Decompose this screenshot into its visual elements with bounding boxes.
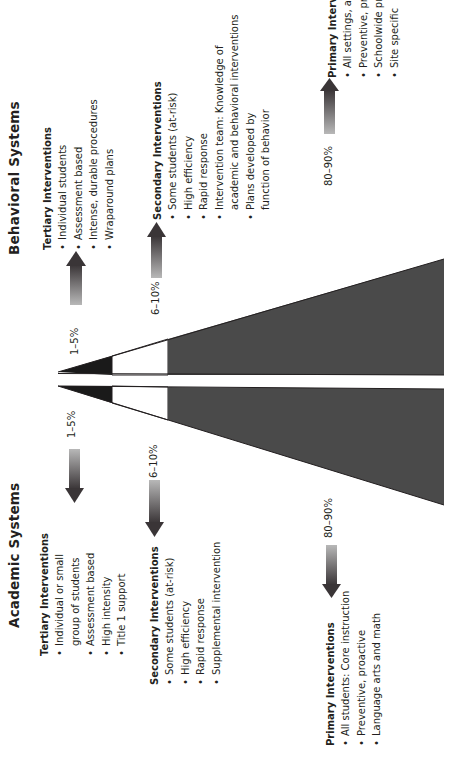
list-item: function of behavior bbox=[258, 15, 274, 221]
list-item: Supplemental intervention bbox=[209, 542, 225, 685]
behavioral-secondary-heading: Secondary Interventions bbox=[150, 15, 165, 221]
academic-secondary-arrow-icon bbox=[145, 480, 164, 537]
list-item: All students: Core instruction bbox=[338, 591, 354, 746]
academic-primary-tier bbox=[168, 387, 444, 505]
list-item: group of students bbox=[68, 533, 84, 656]
academic-primary-heading: Primary Interventions bbox=[323, 591, 338, 746]
behavioral-tertiary-block: Tertiary Interventions Individual studen… bbox=[40, 99, 117, 250]
list-item: All settings, all students bbox=[340, 0, 356, 78]
behavioral-tertiary-heading: Tertiary Interventions bbox=[40, 99, 55, 250]
academic-tertiary-percent: 1–5% bbox=[66, 411, 77, 438]
academic-secondary-tier bbox=[112, 386, 168, 420]
list-item: Assessment based bbox=[71, 99, 87, 250]
list-item: High efficiency bbox=[178, 542, 194, 685]
list-item: Rapid response bbox=[193, 542, 209, 685]
behavioral-tertiary-percent: 1–5% bbox=[69, 328, 80, 355]
behavioral-secondary-percent: 6–10% bbox=[150, 281, 161, 315]
behavioral-primary-arrow-icon bbox=[320, 78, 339, 134]
list-item: Site specific bbox=[387, 0, 403, 78]
academic-primary-block: Primary Interventions All students: Core… bbox=[323, 591, 385, 746]
behavioral-primary-block: Primary Interventions All settings, all … bbox=[325, 0, 402, 78]
list-item: Individual or small bbox=[52, 533, 68, 656]
behavioral-secondary-arrow-icon bbox=[147, 222, 166, 278]
academic-secondary-percent: 6–10% bbox=[148, 444, 159, 478]
list-item: Intervention team: Knowledge of bbox=[212, 15, 228, 221]
academic-primary-percent: 80–90% bbox=[323, 498, 334, 538]
behavioral-primary-percent: 80–90% bbox=[323, 146, 334, 186]
behavioral-primary-heading: Primary Interventions bbox=[325, 0, 340, 78]
list-item: Language arts and math bbox=[369, 591, 385, 746]
academic-tertiary-heading: Tertiary Interventions bbox=[37, 533, 52, 656]
behavioral-systems-title: Behavioral Systems bbox=[6, 101, 22, 255]
list-item: Rapid response bbox=[196, 15, 212, 221]
behavioral-pyramid bbox=[58, 259, 444, 375]
behavioral-primary-tier bbox=[168, 259, 444, 375]
academic-tertiary-block: Tertiary Interventions Individual or sma… bbox=[37, 533, 130, 656]
list-item: Individual students bbox=[55, 99, 71, 250]
list-item: Preventive, proactive bbox=[354, 591, 370, 746]
academic-secondary-heading: Secondary Interventions bbox=[147, 542, 162, 685]
list-item: High efficiency bbox=[181, 15, 197, 221]
behavioral-tertiary-arrow-icon bbox=[66, 251, 86, 305]
list-item: Preventive, proactive bbox=[356, 0, 372, 78]
list-item: Plans developed by bbox=[243, 15, 259, 221]
list-item: High intensity bbox=[99, 533, 115, 656]
list-item: academic and behavioral interventions bbox=[227, 15, 243, 221]
list-item: Wraparound plans bbox=[102, 99, 118, 250]
academic-tertiary-arrow-icon bbox=[65, 449, 84, 503]
behavioral-secondary-tier bbox=[112, 339, 168, 375]
list-item: Schoolwide programs bbox=[371, 0, 387, 78]
list-item: Some students (at-risk) bbox=[165, 15, 181, 221]
academic-pyramid bbox=[58, 386, 444, 505]
academic-systems-title: Academic Systems bbox=[6, 483, 22, 628]
list-item: Some students (at-risk) bbox=[162, 542, 178, 685]
academic-secondary-block: Secondary Interventions Some students (a… bbox=[147, 542, 224, 685]
list-item: Intense, durable procedures bbox=[86, 99, 102, 250]
list-item: Title 1 support bbox=[114, 533, 130, 656]
behavioral-secondary-block: Secondary Interventions Some students (a… bbox=[150, 15, 274, 221]
list-item: Assessment based bbox=[83, 533, 99, 656]
